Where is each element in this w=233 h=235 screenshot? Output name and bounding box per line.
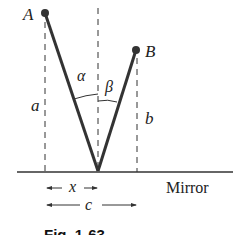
angle-arc-alpha [74,94,98,99]
point-b [132,46,140,54]
label-b-point: B [145,42,156,61]
figure-caption: Fig. 1-63 [44,226,105,235]
label-a-point: A [22,5,34,24]
label-beta: β [104,78,113,96]
diagram-canvas: A B α β a b x c Mirror Fig. 1-63 [0,0,233,235]
label-length-c: c [85,196,92,213]
mirror-label: Mirror [166,179,209,196]
reflection-diagram: A B α β a b x c Mirror Fig. 1-63 [0,0,233,235]
label-length-x: x [68,178,76,195]
ray-reflected [98,50,136,171]
point-a [41,9,49,17]
label-length-a: a [31,96,40,115]
dimension-c: c [46,196,137,213]
ray-incident [45,13,98,171]
dimension-x: x [46,178,98,195]
label-alpha: α [77,67,86,84]
angle-arc-beta [98,100,117,102]
label-length-b: b [145,109,154,128]
